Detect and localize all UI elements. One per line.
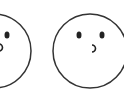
right-eye-icon <box>100 32 105 39</box>
faces-canvas <box>0 0 124 97</box>
face-outline-icon <box>0 14 31 88</box>
right-face <box>53 14 124 88</box>
left-face <box>0 14 31 88</box>
eye-icon <box>5 32 10 39</box>
face-outline-icon <box>53 14 124 88</box>
left-eye-icon <box>77 32 82 39</box>
